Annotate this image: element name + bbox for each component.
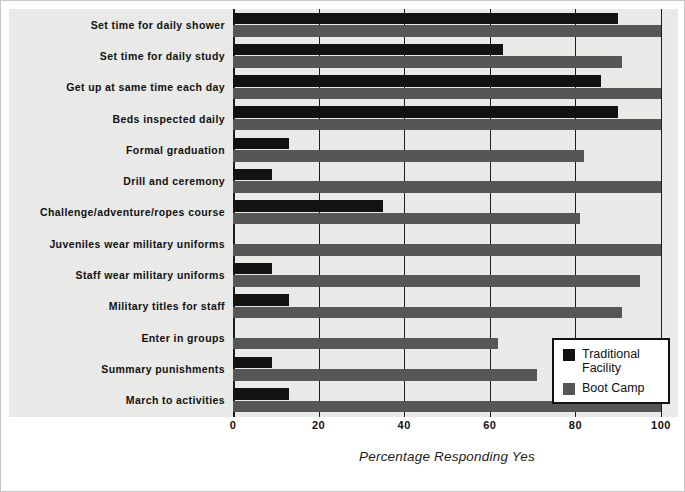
category-label: Formal graduation [126,144,225,156]
bar-traditional-facility [233,138,289,150]
bar-boot-camp [233,213,580,225]
legend-swatch-icon [563,383,575,395]
bar-group [233,40,661,71]
bar-traditional-facility [233,13,618,25]
category-label: Drill and ceremony [123,175,225,187]
bar-traditional-facility [233,200,383,212]
bar-boot-camp [233,150,584,162]
bar-traditional-facility [233,294,289,306]
category-label: March to activities [126,394,225,406]
category-label: Juveniles wear military uniforms [49,238,225,250]
x-tick-100: 100 [651,419,671,431]
bar-row: Get up at same time each day [9,72,678,103]
x-tick-60: 60 [483,419,496,431]
bar-traditional-facility [233,263,272,275]
bar-boot-camp [233,119,661,131]
bar-row: Set time for daily study [9,40,678,71]
bar-group [233,103,661,134]
bar-boot-camp [233,307,622,319]
legend-item: Traditional Facility [563,347,660,375]
bar-boot-camp [233,338,498,350]
bar-boot-camp [233,88,661,100]
category-label: Challenge/adventure/ropes course [40,206,225,218]
bar-boot-camp [233,275,640,287]
bar-group [233,291,661,322]
bar-group [233,165,661,196]
x-tick-80: 80 [569,419,582,431]
bar-group [233,9,661,40]
x-tick-40: 40 [398,419,411,431]
x-tick-labels: 020406080100 [233,417,661,437]
category-label: Beds inspected daily [113,113,225,125]
bar-row: Staff wear military uniforms [9,259,678,290]
bar-row: Beds inspected daily [9,103,678,134]
legend-item: Boot Camp [563,381,660,395]
bar-row: Formal graduation [9,134,678,165]
bar-row: Set time for daily shower [9,9,678,40]
bar-traditional-facility [233,357,272,369]
category-label: Enter in groups [141,332,225,344]
bar-group [233,228,661,259]
bar-row: Challenge/adventure/ropes course [9,197,678,228]
category-label: Military titles for staff [109,300,225,312]
bar-group [233,197,661,228]
category-label: Staff wear military uniforms [76,269,225,281]
bar-row: Military titles for staff [9,291,678,322]
x-axis-title: Percentage Responding Yes [9,449,678,464]
x-tick-20: 20 [312,419,325,431]
bar-group [233,72,661,103]
bar-traditional-facility [233,44,503,56]
legend-label: Traditional Facility [582,347,660,375]
bar-row: Juveniles wear military uniforms [9,228,678,259]
bar-group [233,259,661,290]
category-label: Get up at same time each day [66,81,225,93]
category-label: Set time for daily shower [91,19,225,31]
bar-traditional-facility [233,388,289,400]
legend-label: Boot Camp [582,381,645,395]
bar-boot-camp [233,244,661,256]
x-axis: 020406080100 [9,417,678,443]
chart-legend: Traditional FacilityBoot Camp [552,338,670,404]
category-label: Summary punishments [101,363,225,375]
bar-boot-camp [233,25,661,37]
bar-row: Drill and ceremony [9,165,678,196]
bar-group [233,134,661,165]
bar-traditional-facility [233,169,272,181]
bar-boot-camp [233,181,661,193]
bar-boot-camp [233,369,537,381]
x-tick-0: 0 [230,419,237,431]
bar-traditional-facility [233,75,601,87]
bar-traditional-facility [233,106,618,118]
chart-figure: Set time for daily showerSet time for da… [0,0,685,492]
bar-boot-camp [233,56,622,68]
legend-swatch-icon [563,349,575,361]
category-label: Set time for daily study [100,50,225,62]
